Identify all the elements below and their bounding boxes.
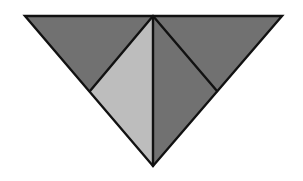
inverted-triangle-diagram: [0, 0, 303, 181]
diagram-canvas: [0, 0, 303, 181]
